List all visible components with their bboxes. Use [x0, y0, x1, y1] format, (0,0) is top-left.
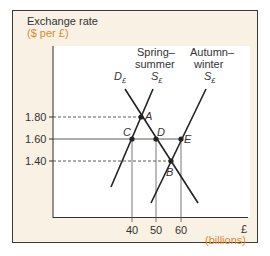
autumn-winter-supply-label: S£ — [204, 70, 215, 87]
spring-summer-label-1: Spring– — [137, 46, 175, 58]
spring-summer-label-2: summer — [135, 58, 175, 70]
point-a-label: A — [145, 110, 152, 122]
point-a — [138, 114, 143, 119]
point-e-label: E — [184, 133, 191, 145]
y-axis-title: Exchange rate — [27, 15, 98, 27]
autumn-winter-label-2: winter — [194, 58, 223, 70]
y-axis-unit: ($ per £) — [27, 27, 69, 39]
x-axis-unit: (billions) — [205, 234, 246, 246]
point-b — [168, 158, 173, 163]
spring-summer-supply-label: S£ — [151, 70, 162, 87]
x-tick-50: 50 — [150, 224, 162, 236]
y-tick-140: 1.40 — [25, 155, 46, 167]
autumn-winter-label-1: Autumn– — [190, 46, 234, 58]
x-tick-40: 40 — [126, 224, 138, 236]
y-tick-160: 1.60 — [25, 133, 46, 145]
x-tick-60: 60 — [175, 224, 187, 236]
point-d-label: D — [157, 126, 165, 138]
point-b-label: B — [166, 166, 173, 178]
point-e — [178, 136, 183, 141]
point-c-label: C — [123, 126, 131, 138]
demand-label: D£ — [114, 70, 126, 87]
y-tick-180: 1.80 — [25, 111, 46, 123]
